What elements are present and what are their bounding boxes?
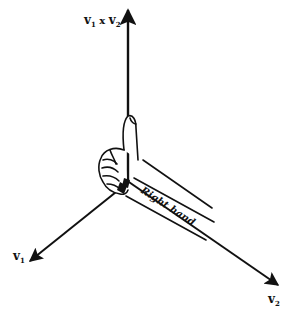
right-hand-rule-diagram: v1 x v2 v1 v2 Right hand: [0, 0, 299, 320]
v2-label: v2: [267, 292, 280, 308]
svg-text:v2: v2: [267, 292, 280, 308]
cross-product-label: v1 x v2: [83, 13, 121, 29]
svg-text:Right hand: Right hand: [138, 184, 197, 228]
v1-label: v1: [12, 249, 25, 265]
svg-text:v1 x v2: v1 x v2: [83, 13, 121, 29]
svg-text:v1: v1: [12, 249, 25, 265]
right-hand-label: Right hand: [138, 184, 197, 228]
v1-vector-arrow: [30, 184, 126, 261]
right-hand-icon: [99, 116, 214, 240]
